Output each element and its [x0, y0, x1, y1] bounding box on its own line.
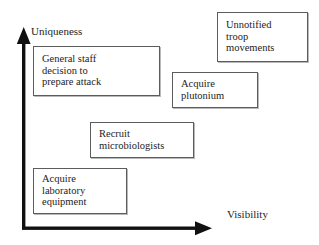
x-axis-line — [22, 227, 198, 230]
concept-box-acquire-laboratory-equipment[interactable]: Acquire laboratory equipment — [33, 168, 127, 214]
y-axis-arrowhead — [17, 27, 31, 44]
y-axis-line — [22, 40, 25, 229]
x-axis-arrowhead — [195, 221, 212, 235]
y-axis-label: Uniqueness — [31, 25, 82, 38]
concept-box-general-staff[interactable]: General staff decision to prepare attack — [33, 46, 160, 96]
concept-box-label: General staff decision to prepare attack — [42, 53, 101, 88]
diagram-canvas: Uniqueness Visibility General staff deci… — [0, 0, 319, 245]
concept-box-label: Acquire plutonium — [181, 78, 224, 101]
concept-box-recruit-microbiologists[interactable]: Recruit microbiologists — [90, 122, 194, 158]
x-axis-label: Visibility — [227, 208, 268, 221]
concept-box-acquire-plutonium[interactable]: Acquire plutonium — [172, 72, 258, 108]
concept-box-label: Acquire laboratory equipment — [42, 173, 86, 208]
concept-box-label: Recruit microbiologists — [99, 128, 164, 151]
concept-box-unnotified-troop-movements[interactable]: Unnotified troop movements — [217, 12, 308, 62]
concept-box-label: Unnotified troop movements — [226, 19, 274, 54]
